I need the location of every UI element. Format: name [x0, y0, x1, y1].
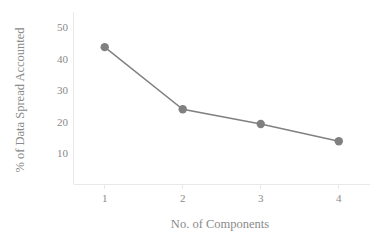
x-tick-label-1: 1	[102, 192, 108, 204]
x-tick-label-2: 2	[180, 192, 186, 204]
y-tick-label-30: 30	[57, 84, 69, 96]
x-tick-label-3: 3	[258, 192, 264, 204]
data-point-marker-2	[179, 105, 187, 113]
scree-plot-chart: 50 40 30 20 10 1 2 3 4 % of Data Spread …	[0, 0, 378, 243]
y-tick-label-40: 40	[57, 53, 69, 65]
chart-canvas: 50 40 30 20 10 1 2 3 4 % of Data Spread …	[0, 0, 378, 243]
data-point-marker-4	[335, 137, 343, 145]
x-tick-label-4: 4	[336, 192, 342, 204]
y-tick-label-50: 50	[57, 21, 69, 33]
data-point-marker-1	[101, 43, 109, 51]
x-axis-title: No. of Components	[171, 217, 269, 231]
y-tick-label-20: 20	[57, 116, 69, 128]
y-axis-title: % of Data Spread Accounted	[13, 27, 27, 173]
data-point-marker-3	[257, 120, 265, 128]
y-tick-label-10: 10	[57, 147, 69, 159]
